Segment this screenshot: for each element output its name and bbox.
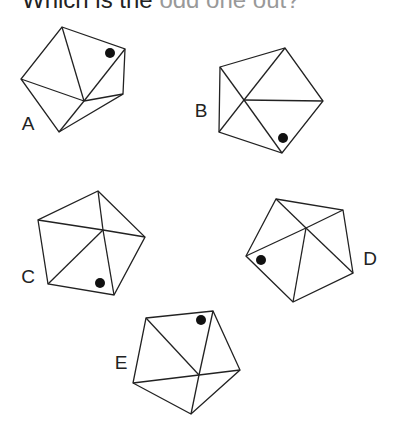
option-d[interactable]: D bbox=[246, 199, 377, 302]
pentagon-outline bbox=[38, 191, 145, 295]
option-label: B bbox=[195, 100, 208, 121]
option-b[interactable]: B bbox=[195, 48, 323, 153]
option-label: A bbox=[22, 113, 35, 134]
option-label: D bbox=[363, 248, 377, 269]
pentagon-diagram: ABCDE bbox=[0, 0, 395, 431]
pentagon-outline bbox=[21, 27, 125, 132]
option-label: C bbox=[21, 266, 35, 287]
dot-marker bbox=[105, 48, 115, 58]
pentagon-outline bbox=[246, 199, 353, 302]
dot-marker bbox=[256, 255, 266, 265]
dot-marker bbox=[278, 133, 288, 143]
dot-marker bbox=[196, 315, 206, 325]
option-label: E bbox=[115, 352, 128, 373]
option-a[interactable]: A bbox=[21, 27, 125, 134]
dot-marker bbox=[95, 278, 105, 288]
option-e[interactable]: E bbox=[115, 311, 240, 414]
option-c[interactable]: C bbox=[21, 191, 145, 295]
